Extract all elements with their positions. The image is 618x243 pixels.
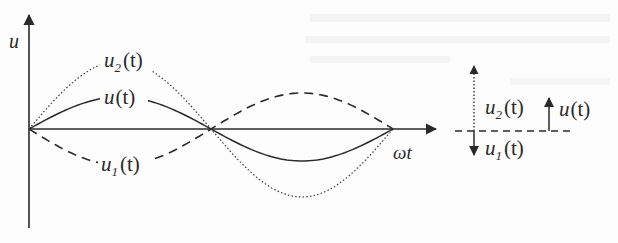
bleed-through-text [305,14,610,85]
svg-text:u1(t): u1(t) [101,152,140,179]
label-u1: u1(t) [101,152,140,179]
label-u2: u2(t) [104,48,143,75]
x-axis-label: ωt [393,142,412,163]
waveform-diagram: u ωt u2(t) u(t) u1(t) u2(t) u(t) u1(t) [0,0,618,243]
svg-text:u2(t): u2(t) [104,48,143,75]
label-u: u(t) [104,85,135,109]
phasor-label-u2: u2(t) [485,95,524,122]
phasor-label-u1: u1(t) [485,136,524,163]
svg-text:u(t): u(t) [104,85,135,109]
phasor-label-u: u(t) [559,97,590,121]
y-axis-label: u [9,30,19,52]
